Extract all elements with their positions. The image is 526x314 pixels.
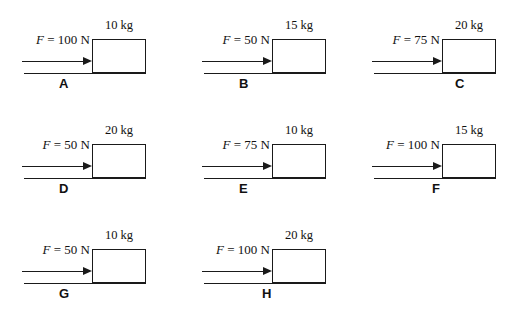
force-label: F = 100 N [386, 138, 440, 151]
arrow-shaft [202, 61, 265, 62]
arrow-shaft [202, 166, 265, 167]
panel-letter: E [239, 182, 248, 195]
panel-b: 15 kg F = 50 N B [184, 6, 354, 106]
arrow-shaft [22, 271, 85, 272]
panel-e: 10 kg F = 75 N E [184, 111, 354, 211]
force-symbol: F [393, 32, 401, 47]
panel-g: 10 kg F = 50 N G [4, 216, 174, 314]
arrow-shaft [202, 271, 265, 272]
panel-letter: G [59, 287, 69, 300]
force-value-text: = 100 N [397, 137, 440, 152]
ground-line [24, 283, 146, 284]
force-value-text: = 50 N [234, 32, 270, 47]
force-arrow-icon [202, 162, 272, 171]
panel-d: 20 kg F = 50 N D [4, 111, 174, 211]
ground-line [374, 73, 496, 74]
mass-label: 20 kg [272, 229, 326, 242]
arrow-head [83, 57, 92, 65]
panel-letter: F [432, 182, 440, 195]
panel-letter: B [239, 77, 248, 90]
force-value-text: = 100 N [47, 32, 90, 47]
force-mass-diagram: 10 kg F = 100 N A 15 kg F = 50 N B 20 kg… [0, 0, 526, 314]
arrow-shaft [372, 61, 435, 62]
block-body [442, 144, 496, 178]
force-arrow-icon [22, 162, 92, 171]
force-arrow-icon [202, 267, 272, 276]
panel-letter: A [59, 77, 68, 90]
force-arrow-icon [22, 267, 92, 276]
force-arrow-icon [372, 57, 442, 66]
force-label: F = 100 N [216, 243, 270, 256]
panel-h: 20 kg F = 100 N H [184, 216, 354, 314]
mass-label: 20 kg [442, 19, 496, 32]
force-arrow-icon [372, 162, 442, 171]
force-symbol: F [36, 32, 44, 47]
arrow-head [433, 57, 442, 65]
force-label: F = 50 N [43, 138, 90, 151]
force-label: F = 75 N [223, 138, 270, 151]
ground-line [204, 283, 326, 284]
force-symbol: F [43, 242, 51, 257]
panel-letter: H [262, 287, 271, 300]
arrow-shaft [22, 61, 85, 62]
force-value-text: = 100 N [227, 242, 270, 257]
panel-a: 10 kg F = 100 N A [4, 6, 174, 106]
arrow-shaft [372, 166, 435, 167]
ground-line [204, 73, 326, 74]
panel-c: 20 kg F = 75 N C [354, 6, 524, 106]
force-label: F = 50 N [43, 243, 90, 256]
arrow-head [263, 57, 272, 65]
force-symbol: F [223, 137, 231, 152]
force-label: F = 100 N [36, 33, 90, 46]
block-body [92, 39, 146, 73]
mass-label: 15 kg [442, 124, 496, 137]
panel-letter: C [455, 77, 464, 90]
arrow-head [83, 162, 92, 170]
block-body [442, 39, 496, 73]
block-body [92, 249, 146, 283]
force-symbol: F [223, 32, 231, 47]
ground-line [24, 73, 146, 74]
block-body [272, 39, 326, 73]
force-label: F = 50 N [223, 33, 270, 46]
force-symbol: F [216, 242, 224, 257]
arrow-shaft [22, 166, 85, 167]
arrow-head [263, 162, 272, 170]
force-symbol: F [386, 137, 394, 152]
block-body [92, 144, 146, 178]
force-symbol: F [43, 137, 51, 152]
block-body [272, 249, 326, 283]
arrow-head [83, 267, 92, 275]
force-arrow-icon [22, 57, 92, 66]
force-arrow-icon [202, 57, 272, 66]
ground-line [204, 178, 326, 179]
mass-label: 15 kg [272, 19, 326, 32]
arrow-head [433, 162, 442, 170]
arrow-head [263, 267, 272, 275]
block-body [272, 144, 326, 178]
force-value-text: = 50 N [54, 137, 90, 152]
mass-label: 10 kg [92, 19, 146, 32]
panel-f: 15 kg F = 100 N F [354, 111, 524, 211]
force-value-text: = 75 N [404, 32, 440, 47]
ground-line [374, 178, 496, 179]
force-label: F = 75 N [393, 33, 440, 46]
mass-label: 10 kg [92, 229, 146, 242]
force-value-text: = 50 N [54, 242, 90, 257]
force-value-text: = 75 N [234, 137, 270, 152]
mass-label: 10 kg [272, 124, 326, 137]
ground-line [24, 178, 146, 179]
panel-letter: D [59, 182, 68, 195]
mass-label: 20 kg [92, 124, 146, 137]
